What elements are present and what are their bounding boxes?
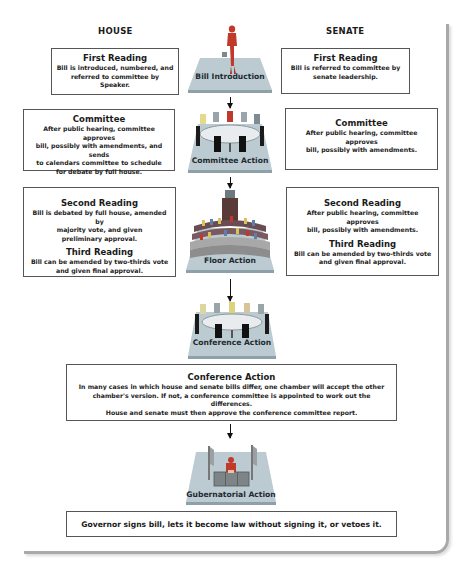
- conference-action-line: In many cases in which house and senate …: [67, 383, 396, 392]
- house-column-heading: HOUSE: [98, 26, 133, 36]
- governor-action-text: Governor signs bill, lets it become law …: [67, 519, 396, 530]
- stage-label: Bill Introduction: [186, 72, 274, 81]
- house-committee-line: for debate by full house.: [24, 168, 174, 177]
- conference-action-line: House and senate must then approve the c…: [67, 409, 396, 418]
- house-committee-line: After public hearing, committee approves: [24, 125, 174, 142]
- house-committee-title: Committee: [24, 114, 174, 125]
- house-first-reading-title: First Reading: [52, 53, 178, 64]
- senate-second-reading-line: After public hearing, committee approves: [287, 209, 438, 226]
- house-first-reading-line: Bill is introduced, numbered, and: [52, 64, 178, 73]
- conference-action-title: Conference Action: [67, 372, 396, 383]
- house-third-reading-line: and given final approval.: [24, 267, 175, 276]
- senate-second-reading-title: Second Reading: [287, 198, 438, 209]
- conference-action-box: Conference Action In many cases in which…: [66, 364, 397, 421]
- governor-desk-icon: [184, 442, 278, 510]
- senate-first-reading-line: Bill is referred to committee by: [282, 64, 409, 73]
- house-first-reading-line: referred to committee by Speaker.: [52, 73, 178, 90]
- stage-conference-action: Conference Action: [186, 302, 278, 364]
- senate-committee-line: After public hearing, committee approves: [286, 129, 437, 146]
- conference-action-line: chamber's version. If not, a conference …: [67, 392, 396, 409]
- house-floor-readings-box: Second Reading Bill is debated by full h…: [23, 187, 176, 277]
- senate-committee-title: Committee: [286, 118, 437, 129]
- senate-committee-box: Committee After public hearing, committe…: [285, 108, 438, 170]
- flow-arrow: [230, 177, 231, 188]
- house-third-reading-line: Bill can be amended by two-thirds vote: [24, 258, 175, 267]
- house-second-reading-line: majority vote, and given: [24, 226, 175, 235]
- senate-second-reading-line: bill, possibly with amendments.: [287, 226, 438, 235]
- governor-action-box: Governor signs bill, lets it become law …: [66, 511, 397, 537]
- conference-table-icon: [186, 302, 278, 364]
- stage-label: Committee Action: [186, 156, 274, 165]
- senate-committee-line: bill, possibly with amendments.: [286, 146, 437, 155]
- stage-label: Floor Action: [184, 256, 276, 265]
- senate-first-reading-box: First Reading Bill is referred to commit…: [281, 48, 410, 94]
- flow-arrow: [230, 97, 231, 108]
- house-second-reading-line: Bill is debated by full house, amended b…: [24, 209, 175, 226]
- house-committee-box: Committee After public hearing, committe…: [23, 109, 175, 171]
- senate-floor-readings-box: Second Reading After public hearing, com…: [286, 187, 439, 276]
- stage-committee-action: Committee Action: [186, 110, 274, 178]
- stage-label: Conference Action: [186, 338, 278, 347]
- flow-arrow: [230, 279, 231, 301]
- flow-arrow: [230, 424, 231, 438]
- stage-bill-introduction: Bill Introduction: [186, 22, 274, 98]
- house-committee-line: to calendars committee to schedule: [24, 159, 174, 168]
- house-second-reading-title: Second Reading: [24, 198, 175, 209]
- senate-first-reading-line: senate leadership.: [282, 73, 409, 82]
- house-first-reading-box: First Reading Bill is introduced, number…: [51, 48, 179, 95]
- stage-label: Gubernatorial Action: [184, 490, 278, 499]
- stage-floor-action: Floor Action: [184, 188, 276, 278]
- senate-third-reading-title: Third Reading: [287, 239, 438, 250]
- house-committee-line: bill, possibly with amendments, and send…: [24, 142, 174, 159]
- senate-third-reading-line: and given final approval.: [287, 258, 438, 267]
- senate-third-reading-line: Bill can be amended by two-thirds vote: [287, 250, 438, 259]
- house-second-reading-line: preliminary approval.: [24, 235, 175, 244]
- committee-table-icon: [186, 110, 274, 178]
- senate-first-reading-title: First Reading: [282, 53, 409, 64]
- presenter-icon: [186, 22, 274, 98]
- senate-column-heading: SENATE: [326, 26, 364, 36]
- house-third-reading-title: Third Reading: [24, 247, 175, 258]
- stage-gubernatorial-action: Gubernatorial Action: [184, 442, 278, 510]
